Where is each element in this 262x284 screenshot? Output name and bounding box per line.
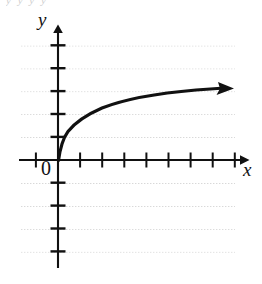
- x-axis-label: x: [243, 160, 251, 179]
- data-curve: [59, 82, 235, 161]
- x-axis: [19, 155, 250, 165]
- graph-figure: y y y y: [0, 0, 262, 284]
- grid-horizontal-lines: [20, 45, 235, 267]
- y-axis-label: y: [38, 10, 46, 29]
- origin-label: 0: [41, 158, 51, 178]
- coordinate-plane: [0, 0, 262, 284]
- grid-vertical-lines: [20, 38, 236, 268]
